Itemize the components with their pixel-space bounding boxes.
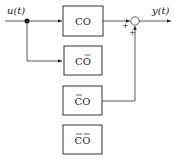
block-cbar-obar-label: CO: [75, 135, 91, 146]
summing-junction: [131, 17, 139, 25]
output-label: y(t): [151, 5, 170, 16]
sign-top: +: [122, 21, 129, 30]
kalman-decomposition-diagram: u(t) CO CO CO CO + + y(t): [0, 0, 175, 159]
block-cbar-obar: CO: [63, 125, 102, 154]
block-c-obar: CO: [64, 46, 102, 75]
cbar-o-output-line: [102, 26, 135, 101]
block-cbar-o-label: CO: [75, 96, 91, 107]
block-co-label: CO: [75, 16, 91, 27]
block-co: CO: [63, 6, 103, 36]
block-c-obar-label: CO: [75, 56, 91, 67]
branch-line: [27, 21, 62, 61]
input-label: u(t): [7, 5, 25, 16]
block-cbar-o: CO: [63, 86, 102, 115]
sign-bottom: +: [129, 28, 136, 37]
